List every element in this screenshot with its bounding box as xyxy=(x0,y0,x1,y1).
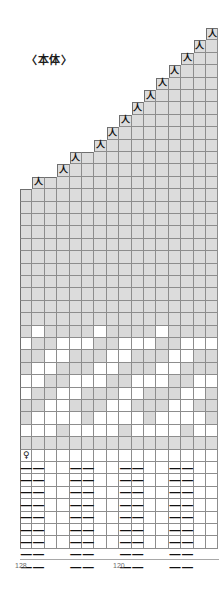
chart-cell[interactable] xyxy=(119,127,131,139)
chart-cell[interactable] xyxy=(70,214,82,226)
chart-cell[interactable] xyxy=(156,202,168,214)
chart-cell[interactable] xyxy=(206,177,218,189)
chart-cell[interactable] xyxy=(32,177,44,189)
chart-cell[interactable] xyxy=(45,462,57,474)
chart-cell[interactable] xyxy=(194,474,206,486)
chart-cell[interactable] xyxy=(94,425,106,437)
chart-cell[interactable] xyxy=(45,487,57,499)
chart-cell[interactable] xyxy=(194,152,206,164)
chart-cell[interactable] xyxy=(94,363,106,375)
chart-cell[interactable] xyxy=(107,400,119,412)
chart-cell[interactable] xyxy=(181,214,193,226)
chart-cell[interactable] xyxy=(194,338,206,350)
chart-cell[interactable] xyxy=(82,524,94,536)
chart-cell[interactable] xyxy=(194,40,206,52)
chart-cell[interactable] xyxy=(206,264,218,276)
chart-cell[interactable] xyxy=(57,412,69,424)
chart-cell[interactable] xyxy=(57,524,69,536)
chart-cell[interactable] xyxy=(206,313,218,325)
chart-cell[interactable] xyxy=(45,512,57,524)
chart-cell[interactable] xyxy=(45,524,57,536)
chart-cell[interactable] xyxy=(156,437,168,449)
chart-cell[interactable] xyxy=(181,226,193,238)
chart-cell[interactable] xyxy=(20,499,32,511)
chart-cell[interactable] xyxy=(206,202,218,214)
chart-cell[interactable] xyxy=(169,251,181,263)
chart-cell[interactable] xyxy=(156,164,168,176)
chart-cell[interactable] xyxy=(107,226,119,238)
chart-cell[interactable] xyxy=(32,363,44,375)
chart-cell[interactable] xyxy=(82,276,94,288)
chart-cell[interactable] xyxy=(94,524,106,536)
chart-cell[interactable] xyxy=(70,350,82,362)
chart-cell[interactable] xyxy=(94,189,106,201)
chart-cell[interactable] xyxy=(206,425,218,437)
chart-cell[interactable] xyxy=(169,90,181,102)
chart-cell[interactable] xyxy=(94,350,106,362)
chart-cell[interactable] xyxy=(107,127,119,139)
chart-cell[interactable] xyxy=(144,499,156,511)
chart-cell[interactable] xyxy=(45,425,57,437)
chart-cell[interactable] xyxy=(107,276,119,288)
chart-cell[interactable] xyxy=(206,412,218,424)
chart-cell[interactable] xyxy=(181,499,193,511)
chart-cell[interactable] xyxy=(82,462,94,474)
chart-cell[interactable] xyxy=(181,512,193,524)
chart-cell[interactable] xyxy=(132,115,144,127)
chart-cell[interactable] xyxy=(107,177,119,189)
chart-cell[interactable] xyxy=(107,524,119,536)
chart-cell[interactable] xyxy=(132,288,144,300)
chart-cell[interactable] xyxy=(119,499,131,511)
chart-cell[interactable] xyxy=(45,474,57,486)
chart-cell[interactable] xyxy=(82,450,94,462)
chart-cell[interactable] xyxy=(107,214,119,226)
chart-cell[interactable] xyxy=(70,177,82,189)
chart-cell[interactable] xyxy=(45,251,57,263)
chart-cell[interactable] xyxy=(169,115,181,127)
chart-cell[interactable] xyxy=(119,487,131,499)
chart-cell[interactable] xyxy=(70,462,82,474)
chart-cell[interactable] xyxy=(20,512,32,524)
chart-cell[interactable] xyxy=(181,152,193,164)
chart-cell[interactable] xyxy=(94,338,106,350)
chart-cell[interactable] xyxy=(194,313,206,325)
chart-cell[interactable] xyxy=(107,412,119,424)
chart-cell[interactable] xyxy=(156,425,168,437)
chart-cell[interactable] xyxy=(169,462,181,474)
chart-cell[interactable] xyxy=(206,437,218,449)
chart-cell[interactable] xyxy=(82,499,94,511)
chart-cell[interactable] xyxy=(169,363,181,375)
chart-cell[interactable] xyxy=(169,326,181,338)
chart-cell[interactable] xyxy=(181,301,193,313)
chart-cell[interactable] xyxy=(144,251,156,263)
chart-cell[interactable] xyxy=(20,536,32,548)
chart-cell[interactable] xyxy=(181,53,193,65)
chart-cell[interactable] xyxy=(181,350,193,362)
chart-cell[interactable] xyxy=(206,326,218,338)
chart-cell[interactable] xyxy=(206,53,218,65)
chart-cell[interactable] xyxy=(206,524,218,536)
chart-cell[interactable] xyxy=(206,115,218,127)
chart-cell[interactable] xyxy=(181,288,193,300)
chart-cell[interactable] xyxy=(82,338,94,350)
chart-cell[interactable] xyxy=(169,164,181,176)
chart-cell[interactable] xyxy=(20,214,32,226)
chart-cell[interactable] xyxy=(70,499,82,511)
chart-cell[interactable] xyxy=(107,474,119,486)
chart-cell[interactable] xyxy=(156,251,168,263)
chart-cell[interactable] xyxy=(57,264,69,276)
chart-cell[interactable] xyxy=(82,437,94,449)
chart-cell[interactable] xyxy=(194,214,206,226)
chart-cell[interactable] xyxy=(70,474,82,486)
chart-cell[interactable] xyxy=(132,450,144,462)
chart-cell[interactable] xyxy=(57,288,69,300)
chart-cell[interactable] xyxy=(206,28,218,40)
chart-cell[interactable] xyxy=(45,276,57,288)
chart-cell[interactable] xyxy=(144,524,156,536)
chart-cell[interactable] xyxy=(82,400,94,412)
chart-cell[interactable] xyxy=(57,202,69,214)
chart-cell[interactable] xyxy=(169,474,181,486)
chart-cell[interactable] xyxy=(206,536,218,548)
chart-cell[interactable] xyxy=(82,512,94,524)
chart-cell[interactable] xyxy=(119,276,131,288)
